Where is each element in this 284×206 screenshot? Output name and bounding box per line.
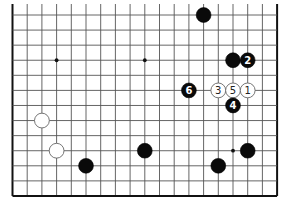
black-stone [240,143,255,158]
star-point [143,58,147,62]
black-stone [196,8,211,23]
black-stone-disc [137,143,152,158]
white-stone-move-1: 1 [240,83,255,98]
black-stone-move-2: 2 [240,53,255,68]
black-stone [79,158,94,173]
move-number: 6 [185,85,192,96]
move-number: 1 [245,85,251,96]
white-stone-disc [49,143,64,158]
go-board: 263514 [0,0,284,206]
black-stone [137,143,152,158]
black-stone-disc [226,53,241,68]
black-stone-disc [240,143,255,158]
move-number: 4 [230,100,237,111]
white-stone-move-3: 3 [211,83,226,98]
black-stone [211,158,226,173]
black-stone-move-6: 6 [182,83,197,98]
star-point [231,149,235,153]
move-number: 3 [215,85,221,96]
black-stone-move-4: 4 [226,98,241,113]
black-stone [226,53,241,68]
black-stone-disc [211,158,226,173]
white-stone-disc [35,113,50,128]
white-stone [49,143,64,158]
black-stone-disc [196,8,211,23]
black-stone-disc [79,158,94,173]
move-number: 2 [244,55,251,66]
white-stone-move-5: 5 [226,83,241,98]
move-number: 5 [230,85,236,96]
white-stone [35,113,50,128]
star-point [55,58,59,62]
